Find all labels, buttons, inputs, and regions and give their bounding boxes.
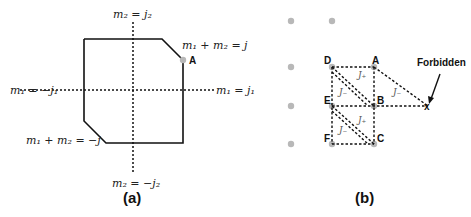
label-point-f: F <box>324 133 330 144</box>
label-top: m₂ = j₂ <box>113 8 152 21</box>
forbidden-label: Forbidden <box>417 57 466 68</box>
j-minus-label: J₋ <box>337 87 348 97</box>
label-left: m₁ = −j₁ <box>10 84 58 97</box>
label-point-b: B <box>377 95 384 106</box>
label-point-d: D <box>324 55 331 66</box>
label-point-e: E <box>324 95 331 106</box>
label-upper-diagonal: m₁ + m₂ = j <box>182 39 248 52</box>
panel-a: m₂ = j₂ m₂ = −j₂ m₁ = −j₁ m₁ = j₁ m₁ + m… <box>10 8 255 206</box>
label-point-c: C <box>377 133 384 144</box>
j-minus-label: J₋ <box>391 87 402 97</box>
j-plus-label: J₊ <box>356 70 367 80</box>
label-point-a: A <box>372 55 379 66</box>
label-point-x: x <box>424 101 430 112</box>
point-a-dot <box>180 57 186 63</box>
label-point-a: A <box>189 55 196 66</box>
forbidden-arrow <box>431 74 440 99</box>
figure-canvas: m₂ = j₂ m₂ = −j₂ m₁ = −j₁ m₁ = j₁ m₁ + m… <box>0 0 471 217</box>
panel-b: D A E B F C x Forbidden J₊ J₋ J₋ J₊ J₋ (… <box>288 18 466 206</box>
label-lower-diagonal: m₁ + m₂ = −j <box>26 134 101 147</box>
j-plus-label: J₊ <box>356 115 367 125</box>
caption-a: (a) <box>123 189 141 206</box>
label-right: m₁ = j₁ <box>216 84 255 97</box>
caption-b: (b) <box>355 189 374 206</box>
j-minus-label: J₋ <box>337 125 348 135</box>
